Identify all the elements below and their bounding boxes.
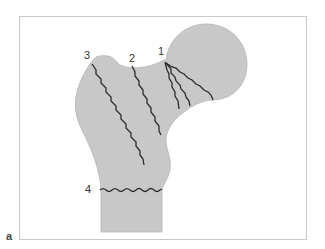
femur-diagram	[0, 0, 325, 249]
fracture-label-4: 4	[85, 184, 91, 195]
fracture-label-2: 2	[129, 53, 135, 64]
fracture-label-3: 3	[84, 50, 90, 61]
panel-label: a	[6, 230, 12, 242]
fracture-label-1: 1	[158, 46, 164, 57]
